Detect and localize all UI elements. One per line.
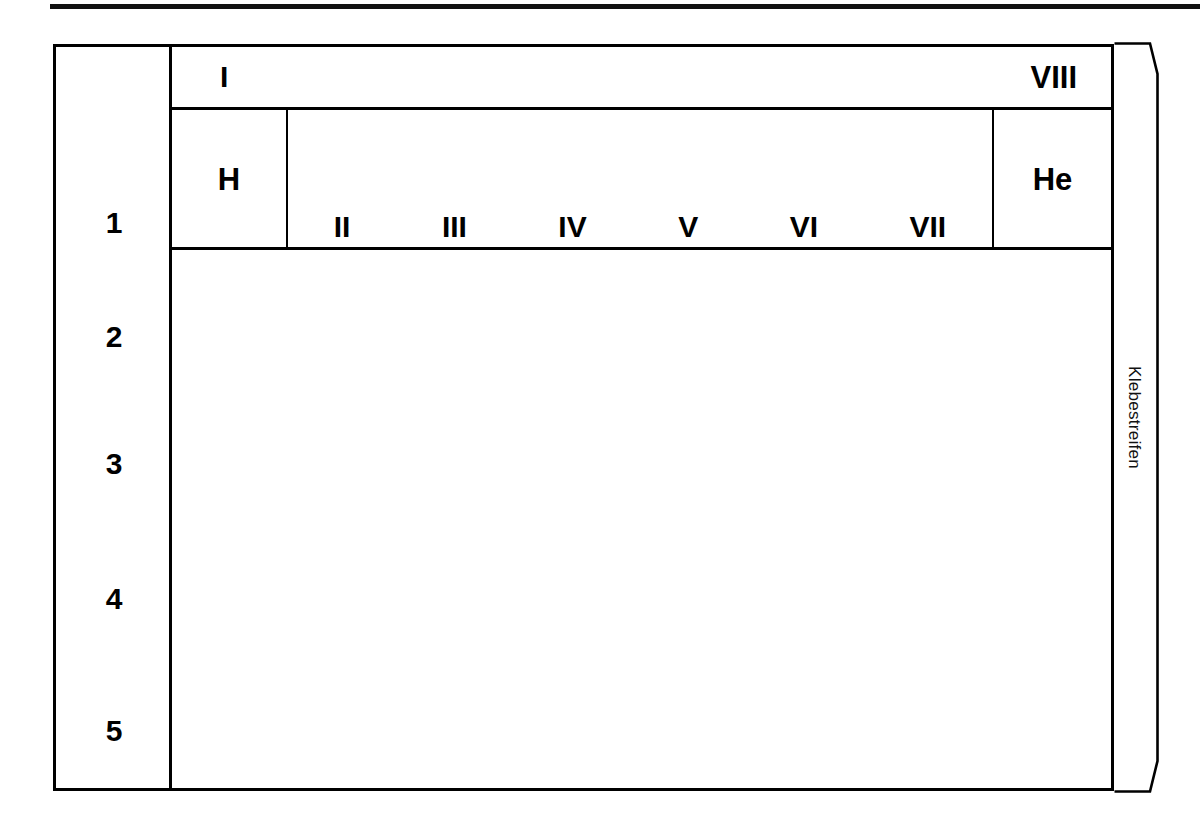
period-number-2: 2 bbox=[56, 322, 172, 352]
period-number-5: 5 bbox=[56, 716, 172, 746]
period-number-1: 1 bbox=[56, 208, 172, 238]
glue-strip-outline bbox=[1112, 41, 1160, 794]
element-symbol-He: He bbox=[994, 163, 1111, 194]
element-symbol-H: H bbox=[172, 163, 286, 194]
period-number-3: 3 bbox=[56, 449, 172, 479]
period-number-column: 1 2 3 4 5 bbox=[56, 47, 172, 788]
group-label-V: V bbox=[678, 212, 698, 242]
element-cell-helium[interactable]: He bbox=[992, 110, 1111, 247]
blank-work-area[interactable] bbox=[172, 250, 1111, 788]
group-header-row: I VIII bbox=[172, 47, 1111, 110]
page-canvas: 1 2 3 4 5 I VIII H II III IV V VI bbox=[0, 0, 1200, 839]
subgroup-label-strip: II III IV V VI VII bbox=[288, 110, 992, 247]
periodic-table-worksheet: 1 2 3 4 5 I VIII H II III IV V VI bbox=[53, 44, 1114, 791]
element-cell-hydrogen[interactable]: H bbox=[172, 110, 288, 247]
group-label-III: III bbox=[442, 212, 467, 242]
group-label-IV: IV bbox=[558, 212, 586, 242]
group-label-VIII: VIII bbox=[1030, 62, 1077, 93]
group-label-VI: VI bbox=[790, 212, 818, 242]
group-label-VII: VII bbox=[910, 212, 947, 242]
first-period-row: H II III IV V VI VII He bbox=[172, 110, 1111, 250]
subgroup-label-list: II III IV V VI VII bbox=[288, 212, 992, 242]
glue-strip-tab bbox=[1112, 41, 1160, 794]
period-number-4: 4 bbox=[56, 584, 172, 614]
group-label-I: I bbox=[220, 62, 228, 92]
top-divider-rule bbox=[50, 4, 1200, 9]
group-label-II: II bbox=[334, 212, 351, 242]
